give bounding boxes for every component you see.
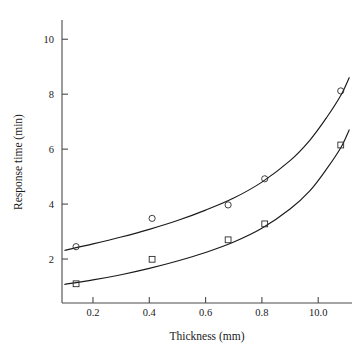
series-lower-curve-line (65, 130, 349, 284)
y-tick-label: 2 (49, 254, 54, 265)
x-tick-label: 0.6 (199, 307, 212, 318)
data-point-square (225, 237, 231, 243)
data-point-circle (73, 244, 79, 250)
series-upper-curve-line (65, 78, 349, 251)
x-axis-title: Thickness (mm) (169, 330, 244, 343)
data-point-square (149, 256, 155, 262)
y-tick-label: 10 (44, 34, 55, 45)
y-axis-title: Response time (min) (12, 114, 25, 210)
data-point-circle (149, 215, 155, 221)
y-axis-tick-labels: 246810 (44, 34, 55, 265)
x-axis-ticks (93, 297, 318, 303)
x-tick-label: 0.2 (86, 307, 99, 318)
x-tick-label: 0.8 (255, 307, 268, 318)
x-axis-tick-labels: 0.20.40.60.810.0 (86, 307, 327, 318)
x-tick-label: 10.0 (309, 307, 327, 318)
y-tick-label: 6 (49, 144, 54, 155)
data-point-circle (225, 202, 231, 208)
y-tick-label: 4 (49, 199, 55, 210)
series-upper-curve-markers (73, 88, 344, 250)
series-lower-curve-markers (73, 142, 343, 287)
chart-canvas: 246810 0.20.40.60.810.0 Thickness (mm) R… (0, 0, 360, 353)
x-tick-label: 0.4 (143, 307, 157, 318)
y-tick-label: 8 (49, 89, 54, 100)
chart-figure: 246810 0.20.40.60.810.0 Thickness (mm) R… (0, 0, 360, 353)
y-axis-ticks (62, 39, 68, 259)
